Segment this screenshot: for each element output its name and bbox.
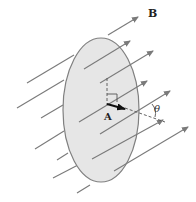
area-vector-label-a: A [103,111,112,122]
field-line-2-back [17,80,64,108]
angle-label-theta: θ [154,103,160,114]
field-label-b: B [148,7,157,20]
field-line-4-back [35,131,64,149]
field-line-1 [108,17,138,35]
field-line-5-back [57,153,68,160]
surface-ellipse [63,38,139,182]
field-line-7-back [77,185,90,193]
field-line-3-back [41,105,63,118]
magnetic-flux-diagram: B A θ [0,0,196,202]
field-line-6-back [53,165,78,178]
